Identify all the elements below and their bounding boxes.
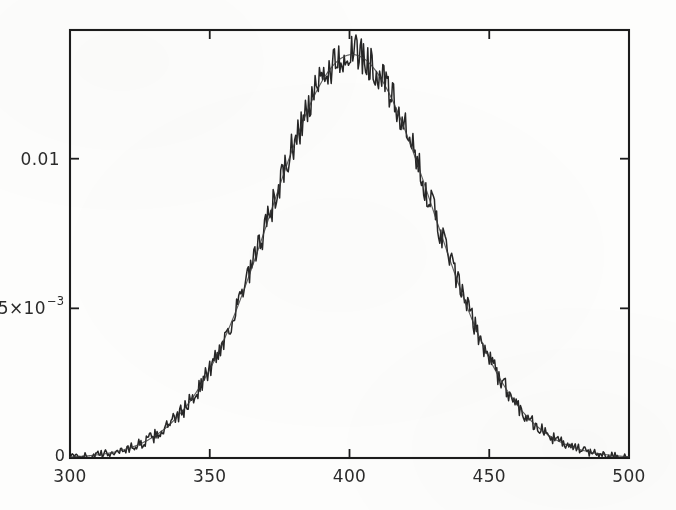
svg-text:0.01: 0.01: [21, 149, 60, 169]
y-tick-label-1: 5×10−3: [0, 294, 64, 318]
y-axis-tick-labels: 05×10−30.01: [0, 149, 65, 465]
plot-frame-box: [70, 30, 629, 458]
svg-text:5×10: 5×10: [0, 298, 46, 318]
svg-text:−3: −3: [47, 294, 64, 308]
y-axis-ticks-left: [70, 159, 79, 309]
y-axis-ticks-right: [620, 159, 629, 309]
series-path-fit: [70, 55, 629, 457]
figure-canvas: 300350400450500 05×10−30.01: [0, 0, 676, 510]
x-tick-label-400: 400: [333, 466, 367, 486]
x-axis-ticks-bottom: [210, 449, 490, 458]
data-series-group: [70, 35, 629, 458]
series-path-data: [70, 35, 629, 458]
y-tick-label-2: 0.01: [21, 149, 60, 169]
x-tick-label-350: 350: [193, 466, 227, 486]
x-tick-label-450: 450: [472, 466, 506, 486]
x-axis-tick-labels: 300350400450500: [53, 466, 646, 486]
axes-frame: [70, 30, 629, 458]
x-tick-label-300: 300: [53, 466, 87, 486]
x-tick-label-500: 500: [612, 466, 646, 486]
y-tick-label-origin: 0: [55, 446, 65, 465]
gaussian-distribution-plot: 300350400450500 05×10−30.01: [0, 0, 676, 510]
x-axis-ticks-top: [210, 30, 490, 39]
